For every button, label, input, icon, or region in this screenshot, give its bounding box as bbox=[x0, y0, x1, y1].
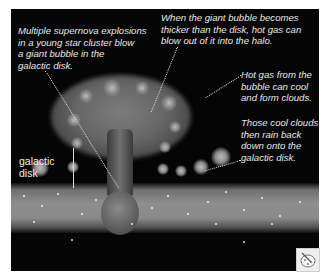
palette-button[interactable] bbox=[296, 248, 320, 272]
cloud bbox=[135, 81, 149, 95]
leader-cooling bbox=[205, 75, 241, 98]
cloud bbox=[103, 79, 121, 97]
star-cluster-bubble bbox=[101, 191, 139, 235]
galactic-disk-band bbox=[11, 183, 319, 233]
annotation-supernova: Multiple supernova explosions in a young… bbox=[18, 25, 147, 71]
falling-cloud bbox=[157, 163, 169, 175]
diagram-panel: Multiple supernova explosions in a young… bbox=[11, 9, 319, 271]
cloud bbox=[79, 89, 93, 103]
palette-icon bbox=[299, 251, 317, 269]
annotation-cooling: Hot gas from the bubble can cool and for… bbox=[241, 69, 312, 104]
cloud bbox=[161, 95, 177, 111]
falling-cloud bbox=[193, 159, 209, 175]
cloud bbox=[159, 141, 171, 153]
cloud bbox=[169, 121, 181, 133]
disk-label-line bbox=[73, 148, 74, 188]
galactic-disk-label: galactic disk bbox=[19, 155, 55, 179]
falling-cloud bbox=[175, 165, 187, 177]
outflow-stem bbox=[107, 129, 133, 199]
annotation-rain: Those cool clouds then rain back down on… bbox=[241, 117, 318, 163]
annotation-blowout: When the giant bubble becomes thicker th… bbox=[161, 12, 301, 47]
